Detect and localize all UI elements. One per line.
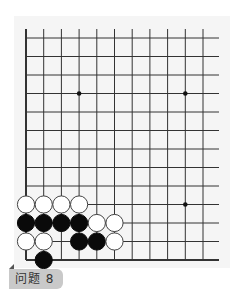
black-stone	[35, 251, 52, 268]
problem-label: 问题 8	[9, 269, 63, 289]
white-stone	[17, 196, 34, 213]
black-stone	[53, 214, 70, 231]
white-stone	[88, 214, 105, 231]
black-stone	[71, 233, 88, 250]
go-board[interactable]	[0, 0, 243, 303]
black-stone	[71, 214, 88, 231]
black-stone	[88, 233, 105, 250]
white-stone	[106, 214, 123, 231]
white-stone	[71, 196, 88, 213]
stones	[17, 196, 123, 269]
white-stone	[35, 233, 52, 250]
white-stone	[106, 233, 123, 250]
star-point	[183, 202, 188, 207]
white-stone	[17, 233, 34, 250]
black-stone	[17, 214, 34, 231]
star-point	[183, 91, 188, 96]
star-point	[77, 91, 82, 96]
white-stone	[35, 196, 52, 213]
black-stone	[35, 214, 52, 231]
white-stone	[53, 196, 70, 213]
